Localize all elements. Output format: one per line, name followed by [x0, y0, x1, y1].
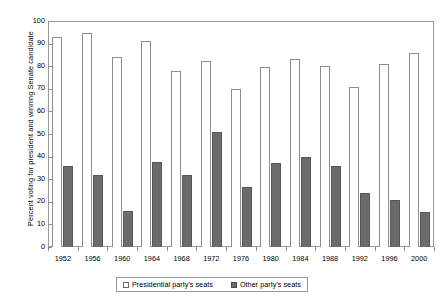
legend-label: Presidential party's seats — [132, 280, 213, 289]
bar-other-party — [420, 212, 430, 247]
x-tick-label: 1992 — [345, 254, 375, 263]
legend-swatch-presidential-icon — [123, 282, 129, 288]
bar-other-party — [242, 187, 252, 247]
bar-presidential-party — [52, 37, 62, 247]
bar-presidential-party — [290, 59, 300, 247]
legend-label: Other party's seats — [240, 280, 301, 289]
x-tick-mark — [167, 247, 168, 251]
x-tick-mark — [434, 247, 435, 251]
bar-presidential-party — [112, 57, 122, 247]
x-tick-mark — [345, 247, 346, 251]
bar-presidential-party — [409, 53, 419, 247]
x-tick-label: 1956 — [78, 254, 108, 263]
x-tick-mark — [226, 247, 227, 251]
bar-chart: Percent voting for president and winning… — [0, 0, 447, 300]
bar-presidential-party — [320, 66, 330, 247]
bar-presidential-party — [260, 67, 270, 247]
x-tick-label: 1980 — [256, 254, 286, 263]
bar-other-party — [331, 166, 341, 247]
bar-presidential-party — [231, 89, 241, 247]
x-tick-mark — [256, 247, 257, 251]
x-tick-mark — [315, 247, 316, 251]
bar-presidential-party — [141, 41, 151, 247]
x-tick-mark — [107, 247, 108, 251]
bar-other-party — [152, 162, 162, 247]
x-tick-mark — [404, 247, 405, 251]
bar-presidential-party — [201, 61, 211, 247]
x-tick-mark — [196, 247, 197, 251]
bar-other-party — [390, 200, 400, 247]
bar-presidential-party — [171, 71, 181, 247]
legend-swatch-other-icon — [231, 282, 237, 288]
bar-presidential-party — [82, 33, 92, 247]
x-tick-label: 1984 — [286, 254, 316, 263]
bar-presidential-party — [349, 87, 359, 247]
x-tick-mark — [286, 247, 287, 251]
bar-other-party — [123, 211, 133, 247]
x-tick-label: 1988 — [315, 254, 345, 263]
x-tick-label: 1964 — [137, 254, 167, 263]
bar-other-party — [182, 175, 192, 247]
x-tick-label: 1960 — [107, 254, 137, 263]
x-tick-mark — [137, 247, 138, 251]
legend-item: Other party's seats — [231, 280, 301, 289]
bar-other-party — [301, 157, 311, 247]
bar-other-party — [63, 166, 73, 247]
bars-group — [48, 21, 434, 247]
x-tick-label: 1996 — [375, 254, 405, 263]
x-tick-label: 1968 — [167, 254, 197, 263]
bar-other-party — [212, 132, 222, 247]
x-tick-label: 1976 — [226, 254, 256, 263]
x-tick-mark — [78, 247, 79, 251]
bar-other-party — [93, 175, 103, 247]
y-tick-mark — [48, 247, 52, 248]
y-axis-title: Percent voting for president and winning… — [26, 4, 35, 254]
legend-item: Presidential party's seats — [123, 280, 213, 289]
x-tick-mark — [48, 247, 49, 251]
x-tick-label: 1952 — [48, 254, 78, 263]
bar-other-party — [271, 163, 281, 247]
x-tick-mark — [375, 247, 376, 251]
bar-presidential-party — [379, 64, 389, 247]
bar-other-party — [360, 193, 370, 247]
x-tick-label: 1972 — [196, 254, 226, 263]
chart-legend: Presidential party's seatsOther party's … — [116, 277, 308, 292]
x-tick-label: 2000 — [404, 254, 434, 263]
